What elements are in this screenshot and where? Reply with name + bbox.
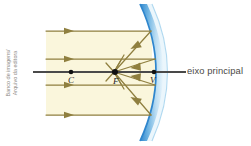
label-focus: F	[112, 76, 119, 86]
point-vertex	[152, 70, 157, 75]
point-focus	[112, 69, 118, 75]
figure-container: C F V Banco de imagens/ Arquivo da edito…	[0, 0, 251, 146]
point-center-of-curvature	[69, 70, 74, 75]
light-beam-bands	[46, 31, 160, 115]
principal-axis-label: eixo principal	[187, 65, 243, 76]
label-center-of-curvature: C	[68, 75, 75, 85]
